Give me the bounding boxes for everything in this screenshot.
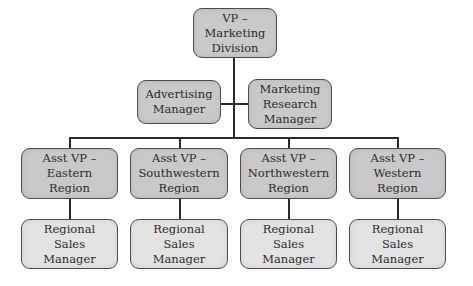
box-label-line: Regional <box>44 222 95 237</box>
southwestern-report-line <box>179 198 181 220</box>
trunk-line <box>233 57 235 138</box>
box-label-line: Manager <box>371 252 424 267</box>
asst-vp-eastern-region-box: Asst VP – Eastern Region <box>21 148 118 199</box>
marketing-research-manager-box: Marketing Research Manager <box>248 79 332 129</box>
box-label-line: Sales <box>54 237 85 252</box>
asst-vp-northwestern-region-box: Asst VP – Northwestern Region <box>240 148 337 199</box>
box-label-line: Advertising <box>145 87 212 102</box>
box-label-line: Marketing <box>260 82 321 97</box>
western-report-line <box>397 198 399 220</box>
box-label-line: Region <box>268 181 309 196</box>
box-label-line: Research <box>263 97 317 112</box>
box-label-line: VP – <box>222 11 247 26</box>
box-label-line: Region <box>377 181 418 196</box>
box-label-line: Asst VP – <box>262 151 316 166</box>
box-label-line: Western <box>374 166 422 181</box>
box-label-line: Asst VP – <box>43 151 97 166</box>
regional-sales-manager-northwestern-box: Regional Sales Manager <box>240 219 337 269</box>
box-label-line: Southwestern <box>138 166 219 181</box>
box-label-line: Region <box>159 181 200 196</box>
box-label-line: Marketing <box>205 26 266 41</box>
advertising-manager-box: Advertising Manager <box>137 80 221 124</box>
box-label-line: Manager <box>153 252 206 267</box>
box-label-line: Sales <box>273 237 304 252</box>
box-label-line: Asst VP – <box>152 151 206 166</box>
box-label-line: Regional <box>153 222 204 237</box>
box-label-line: Regional <box>372 222 423 237</box>
eastern-report-line <box>69 198 71 220</box>
box-label-line: Manager <box>43 252 96 267</box>
regional-sales-manager-southwestern-box: Regional Sales Manager <box>130 219 228 269</box>
region-bus-line <box>69 137 398 139</box>
northwestern-report-line <box>288 198 290 220</box>
box-label-line: Region <box>49 181 90 196</box>
box-label-line: Northwestern <box>248 166 329 181</box>
box-label-line: Sales <box>163 237 194 252</box>
asst-vp-southwestern-region-box: Asst VP – Southwestern Region <box>130 148 228 199</box>
box-label-line: Manager <box>153 102 206 117</box>
box-label-line: Division <box>212 41 259 56</box>
staff-connector-line <box>220 103 248 105</box>
box-label-line: Eastern <box>47 166 92 181</box>
org-chart: VP – Marketing Division Advertising Mana… <box>0 0 473 286</box>
vp-marketing-division-box: VP – Marketing Division <box>193 8 277 58</box>
box-label-line: Regional <box>263 222 314 237</box>
asst-vp-western-region-box: Asst VP – Western Region <box>349 148 446 199</box>
box-label-line: Manager <box>264 112 317 127</box>
regional-sales-manager-eastern-box: Regional Sales Manager <box>21 219 118 269</box>
box-label-line: Manager <box>262 252 315 267</box>
box-label-line: Sales <box>382 237 413 252</box>
box-label-line: Asst VP – <box>371 151 425 166</box>
regional-sales-manager-western-box: Regional Sales Manager <box>349 219 446 269</box>
